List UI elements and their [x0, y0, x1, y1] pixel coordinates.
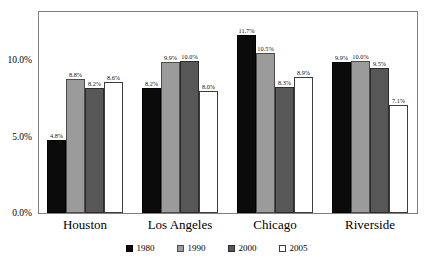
bar-value-label: 10.0% [181, 53, 197, 60]
bar-value-label: 8.0% [202, 83, 215, 90]
legend-swatch-icon [177, 245, 184, 252]
legend-swatch-icon [228, 245, 235, 252]
bar-group: 8.2%9.9%10.0%8.0% [142, 12, 218, 213]
bar[interactable] [47, 140, 66, 213]
legend-item-1980[interactable]: 1980 [126, 243, 155, 253]
bar-value-label: 10.0% [352, 53, 368, 60]
legend-label: 2000 [239, 243, 257, 253]
bar[interactable] [275, 87, 294, 213]
y-tick-label-10: 10.0% [7, 55, 32, 65]
legend-item-2000[interactable]: 2000 [228, 243, 257, 253]
y-tick-label-5: 5.0% [12, 132, 32, 142]
bar-value-label: 9.9% [164, 54, 177, 61]
bar-groups: 4.8%8.8%8.2%8.6%8.2%9.9%10.0%8.0%11.7%10… [39, 12, 417, 213]
plot-area: 4.8%8.8%8.2%8.6%8.2%9.9%10.0%8.0%11.7%10… [39, 12, 417, 213]
bar-group: 9.9%10.0%9.5%7.1% [332, 12, 408, 213]
bar[interactable] [142, 88, 161, 213]
legend-swatch-icon [279, 245, 286, 252]
bar-slot: 8.8% [66, 12, 85, 213]
bar-value-label: 8.2% [88, 80, 101, 87]
bar-slot: 11.7% [237, 12, 256, 213]
bar[interactable] [161, 62, 180, 213]
bar-value-label: 7.1% [392, 97, 405, 104]
bar-value-label: 8.6% [107, 74, 120, 81]
bar-slot: 8.0% [199, 12, 218, 213]
y-tick-label-0: 0.0% [12, 208, 32, 218]
bar[interactable] [256, 53, 275, 213]
bar[interactable] [294, 77, 313, 213]
bar-slot: 4.8% [47, 12, 66, 213]
bar-slot: 8.9% [294, 12, 313, 213]
bar[interactable] [332, 62, 351, 213]
bar-value-label: 4.8% [50, 132, 63, 139]
bar-value-label: 10.5% [257, 45, 273, 52]
legend-swatch-icon [126, 245, 133, 252]
bar-slot: 10.5% [256, 12, 275, 213]
bar-value-label: 8.9% [297, 69, 310, 76]
x-axis-label-houston: Houston [47, 216, 123, 236]
x-axis-label-riverside: Riverside [332, 216, 408, 236]
bar-slot: 8.6% [104, 12, 123, 213]
bar[interactable] [237, 35, 256, 213]
legend-label: 1990 [188, 243, 206, 253]
bar-slot: 9.5% [370, 12, 389, 213]
bar-value-label: 9.5% [373, 60, 386, 67]
bar-slot: 8.3% [275, 12, 294, 213]
bar[interactable] [180, 61, 199, 213]
bar-slot: 7.1% [389, 12, 408, 213]
bar-value-label: 9.9% [335, 54, 348, 61]
bar-slot: 8.2% [142, 12, 161, 213]
bar[interactable] [351, 61, 370, 213]
bar[interactable] [370, 68, 389, 213]
bar[interactable] [199, 91, 218, 213]
x-axis-label-los-angeles: Los Angeles [142, 216, 218, 236]
bar[interactable] [85, 88, 104, 213]
bar-chart: 10.0% 5.0% 0.0% 4.8%8.8%8.2%8.6%8.2%9.9%… [0, 0, 433, 268]
bar-slot: 9.9% [332, 12, 351, 213]
y-axis: 10.0% 5.0% 0.0% [0, 0, 36, 268]
bar[interactable] [104, 82, 123, 213]
x-axis-label-chicago: Chicago [237, 216, 313, 236]
chart-legend: 1980199020002005 [0, 243, 433, 253]
bar-slot: 9.9% [161, 12, 180, 213]
bar-value-label: 8.8% [69, 71, 82, 78]
bar-value-label: 8.2% [145, 80, 158, 87]
bar-slot: 8.2% [85, 12, 104, 213]
legend-label: 2005 [290, 243, 308, 253]
bar[interactable] [389, 105, 408, 213]
bar-group: 11.7%10.5%8.3%8.9% [237, 12, 313, 213]
legend-label: 1980 [137, 243, 155, 253]
bar-value-label: 11.7% [238, 27, 254, 34]
bar-slot: 10.0% [180, 12, 199, 213]
x-axis-categories: HoustonLos AngelesChicagoRiverside [39, 216, 417, 236]
legend-item-1990[interactable]: 1990 [177, 243, 206, 253]
bar-value-label: 8.3% [278, 79, 291, 86]
bar-slot: 10.0% [351, 12, 370, 213]
legend-item-2005[interactable]: 2005 [279, 243, 308, 253]
bar-group: 4.8%8.8%8.2%8.6% [47, 12, 123, 213]
bar[interactable] [66, 79, 85, 213]
